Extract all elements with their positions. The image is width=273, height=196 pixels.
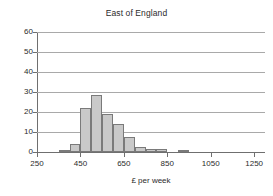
y-tick-label: 40	[3, 68, 33, 76]
x-tick-label: 650	[104, 159, 144, 168]
histogram-bar	[113, 124, 124, 152]
histogram-bar	[178, 150, 189, 152]
histogram-bar	[135, 147, 146, 152]
gridline-y	[37, 152, 265, 153]
x-tick-label: 450	[60, 159, 100, 168]
histogram-bar	[102, 114, 113, 152]
gridline-y	[37, 132, 265, 133]
y-tick-label: 30	[3, 88, 33, 96]
histogram-bar	[59, 150, 70, 152]
x-tick-mark	[124, 153, 125, 157]
x-tick-label: 250	[17, 159, 57, 168]
y-tick-label: 60	[3, 28, 33, 36]
histogram-bar	[156, 149, 167, 152]
histogram-bar	[91, 95, 102, 152]
x-axis-title: £ per week	[37, 176, 265, 185]
histogram-bar	[146, 149, 157, 152]
x-tick-label: 1050	[191, 159, 231, 168]
histogram-chart: East of England 0102030405060 2504506508…	[0, 0, 273, 196]
y-tick-label: 20	[3, 108, 33, 116]
x-tick-mark	[37, 153, 38, 157]
chart-title: East of England	[0, 8, 273, 18]
y-tick-label: 50	[3, 48, 33, 56]
x-tick-label: 850	[147, 159, 187, 168]
gridline-y	[37, 32, 265, 33]
gridline-y	[37, 52, 265, 53]
x-tick-mark	[167, 153, 168, 157]
gridline-y	[37, 92, 265, 93]
plot-area	[37, 32, 265, 152]
histogram-bar	[124, 137, 135, 152]
histogram-bar	[80, 108, 91, 152]
y-tick-label: 10	[3, 128, 33, 136]
y-axis-labels: 0102030405060	[0, 32, 33, 153]
gridline-y	[37, 72, 265, 73]
x-tick-mark	[80, 153, 81, 157]
x-tick-mark	[211, 153, 212, 157]
histogram-bar	[70, 144, 81, 152]
y-tick-label: 0	[3, 148, 33, 156]
x-tick-mark	[254, 153, 255, 157]
x-tick-label: 1250	[234, 159, 273, 168]
gridline-y	[37, 112, 265, 113]
